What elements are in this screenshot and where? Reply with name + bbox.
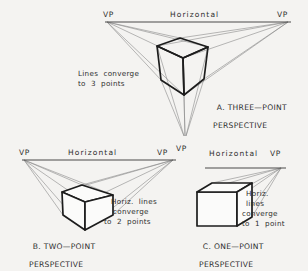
caption-panel-c-line2: PERSPECTIVE <box>192 261 264 270</box>
cube-panel-a <box>157 38 208 95</box>
note-panel-c-line1: Horiz. <box>246 190 269 198</box>
note-panel-c-line3: converge <box>242 210 278 218</box>
caption-panel-b: B. TWO—POINT PERSPECTIVE <box>22 234 95 271</box>
vp-label-panel-c-left: VP <box>176 145 187 154</box>
caption-panel-a-line2: PERSPECTIVE <box>206 122 287 131</box>
vp-label-panel-b-left: VP <box>19 149 30 158</box>
horizon-label-panel-a: Horizontal <box>170 11 219 20</box>
vp-label-panel-a-right: VP <box>277 11 288 20</box>
note-panel-a-line1: Lines converge <box>78 70 139 78</box>
note-panel-b-line3: to 2 points <box>104 218 151 226</box>
note-panel-b-line1: Horiz. lines <box>111 198 157 206</box>
caption-panel-c-line1: C. ONE—POINT <box>203 242 264 251</box>
note-panel-c-line2: lines <box>246 200 264 208</box>
caption-panel-a-line1: A. THREE—POINT <box>217 103 287 112</box>
note-panel-c-line4: to 1 point <box>242 220 285 228</box>
caption-panel-a: A. THREE—POINT PERSPECTIVE <box>206 95 287 149</box>
caption-panel-b-line2: PERSPECTIVE <box>22 261 95 270</box>
caption-panel-c: C. ONE—POINT PERSPECTIVE <box>192 234 264 271</box>
note-panel-b-line2: converge <box>113 208 149 216</box>
vp-label-panel-c-right: VP <box>270 150 281 159</box>
vp-label-panel-a-left: VP <box>103 11 114 20</box>
horizon-label-panel-c: Horizontal <box>209 150 258 159</box>
horizon-label-panel-b: Horizontal <box>68 149 117 158</box>
note-panel-a-line2: to 3 points <box>78 80 125 88</box>
vp-label-panel-b-right: VP <box>157 149 168 158</box>
caption-panel-b-line1: B. TWO—POINT <box>33 242 95 251</box>
